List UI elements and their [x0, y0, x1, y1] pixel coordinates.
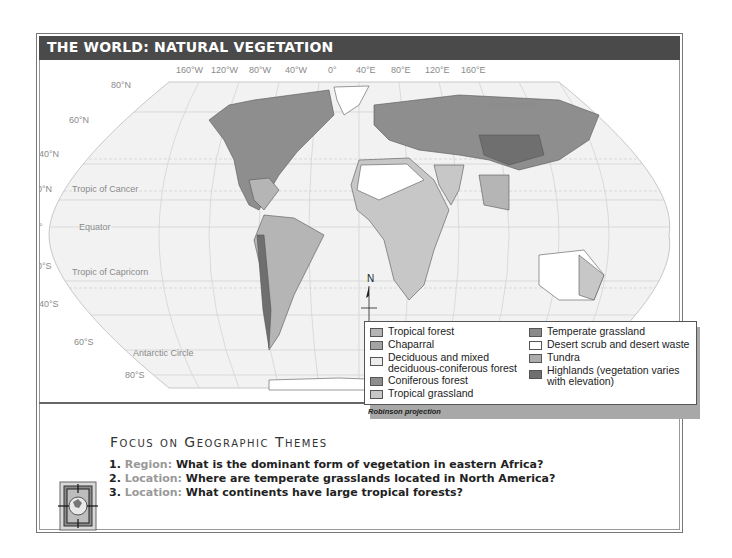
lat-label: 20°N — [39, 184, 52, 194]
lat-label: 60°N — [69, 115, 89, 125]
lon-label: 160°E — [461, 65, 486, 75]
lon-label: 120°E — [425, 65, 450, 75]
swatch-icon — [529, 341, 542, 350]
lat-label: 40°S — [39, 299, 59, 309]
legend-item-tropical-forest: Tropical forest — [368, 326, 528, 337]
compass-north-label: N — [367, 273, 374, 284]
question-3: 3. Location: What continents have large … — [109, 486, 463, 499]
swatch-icon — [370, 377, 383, 386]
swatch-icon — [370, 390, 383, 399]
projection-label: Robinson projection — [368, 407, 441, 416]
legend-item-tropical-grassland: Tropical grassland — [368, 388, 528, 399]
lon-label: 120°W — [211, 65, 238, 75]
swatch-icon — [370, 341, 383, 350]
lon-label: 0° — [328, 65, 337, 75]
theme-label: Region: — [125, 458, 172, 471]
legend-column-left: Tropical forest Chaparral Deciduous and … — [368, 326, 528, 401]
lat-label: 20°S — [39, 261, 52, 271]
map-legend: Tropical forest Chaparral Deciduous and … — [364, 321, 697, 405]
lat-label: 80°S — [125, 370, 145, 380]
swatch-icon — [529, 354, 542, 363]
lat-label: 0° — [39, 222, 43, 232]
swatch-icon — [529, 370, 542, 379]
legend-item-chaparral: Chaparral — [368, 339, 528, 350]
arctic-circle-label: Arctic Circle — [490, 100, 538, 110]
focus-heading: Focus on Geographic Themes — [110, 434, 328, 450]
lat-label: 40°N — [39, 149, 59, 159]
legend-item-temperate-grassland: Temperate grassland — [527, 326, 689, 337]
lon-label: 160°W — [176, 65, 203, 75]
question-1: 1. Region: What is the dominant form of … — [109, 458, 543, 471]
question-2: 2. Location: Where are temperate grassla… — [109, 472, 555, 485]
theme-label: Location: — [125, 486, 182, 499]
lon-label: 40°E — [356, 65, 376, 75]
legend-column-right: Temperate grassland Desert scrub and des… — [527, 326, 689, 388]
tropic-of-capricorn-label: Tropic of Capricorn — [72, 267, 148, 277]
lat-label: 60°S — [74, 337, 94, 347]
tropic-of-cancer-label: Tropic of Cancer — [72, 184, 138, 194]
theme-label: Location: — [125, 472, 182, 485]
globe-compass-icon — [58, 481, 98, 531]
equator-label: Equator — [79, 222, 111, 232]
compass-rose-icon — [359, 284, 379, 324]
swatch-icon — [370, 357, 383, 366]
antarctic-circle-label: Antarctic Circle — [133, 348, 194, 358]
legend-item-tundra: Tundra — [527, 352, 689, 363]
legend-item-highlands: Highlands (vegetation varies with elevat… — [527, 365, 687, 386]
lon-label: 40°W — [285, 65, 307, 75]
legend-item-coniferous: Coniferous forest — [368, 375, 528, 386]
swatch-icon — [529, 328, 542, 337]
swatch-icon — [370, 328, 383, 337]
title-bar: THE WORLD: NATURAL VEGETATION — [39, 36, 680, 60]
lat-label: 80°N — [111, 80, 131, 90]
lon-label: 80°E — [391, 65, 411, 75]
map-title: THE WORLD: NATURAL VEGETATION — [47, 39, 333, 55]
legend-item-deciduous: Deciduous and mixed deciduous-coniferous… — [368, 352, 528, 373]
legend-item-desert: Desert scrub and desert waste — [527, 339, 689, 350]
lon-label: 80°W — [249, 65, 271, 75]
